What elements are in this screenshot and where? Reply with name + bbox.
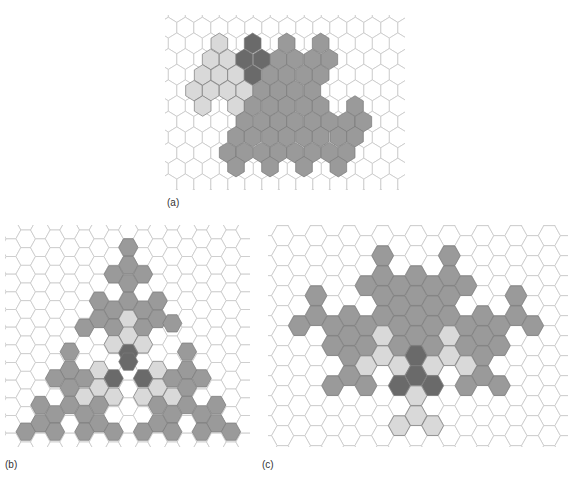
hex-grid-panel-c [268,225,568,447]
panel-label-c: (c) [262,459,274,470]
hex-grid-panel-a [165,15,405,190]
panel-label-b: (b) [5,459,17,470]
hex-grid-panel-b [5,225,250,447]
panel-label-a: (a) [167,197,179,208]
